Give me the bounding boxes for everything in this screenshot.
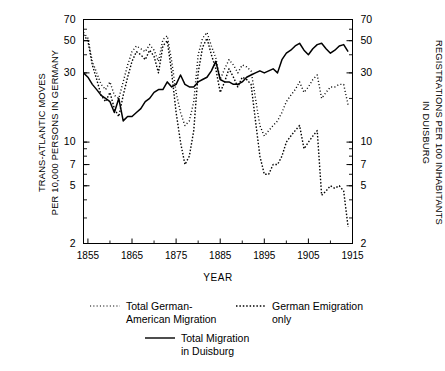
legend-swatch-solid <box>145 332 175 343</box>
legend-item-total-german-american-migration: Total German- American Migration <box>90 300 216 326</box>
legend-label-3: Total Migration in Duisburg <box>181 332 249 358</box>
legend-label-1: Total German- American Migration <box>126 300 216 326</box>
legend-item-german-emigration-only: German Emigration only <box>236 300 363 326</box>
series-line <box>84 43 349 121</box>
legend-swatch-dotted-2 <box>236 300 266 311</box>
legend-swatch-dotted-1 <box>90 300 120 311</box>
legend-item-total-migration-duisburg: Total Migration in Duisburg <box>145 332 249 358</box>
legend-label-2: German Emigration only <box>272 300 363 326</box>
